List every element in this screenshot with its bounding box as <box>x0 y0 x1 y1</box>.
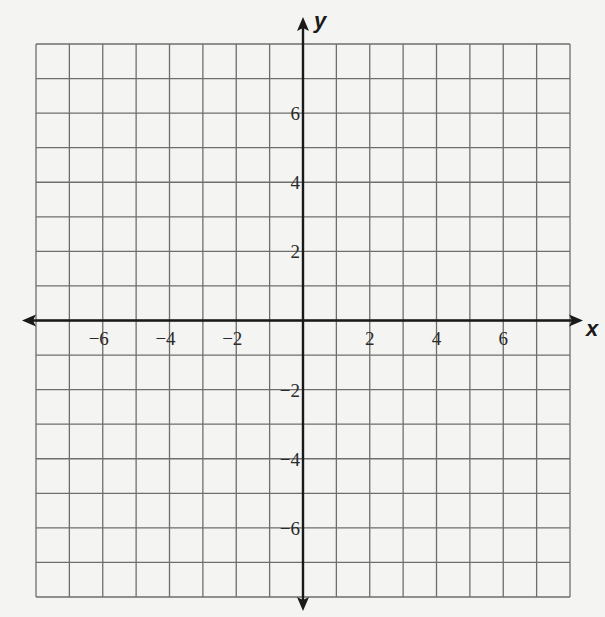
y-axis-label: y <box>313 8 328 33</box>
y-tick-label: −2 <box>280 380 300 401</box>
x-tick-label: 6 <box>499 328 509 349</box>
y-tick-label: 6 <box>291 103 301 124</box>
coordinate-plane: −6−4−2246 642−2−4−6 x y <box>0 0 605 617</box>
y-tick-label: 2 <box>291 241 301 262</box>
x-axis-label: x <box>585 316 599 341</box>
y-tick-label: −4 <box>280 449 301 470</box>
x-tick-label: −4 <box>155 328 176 349</box>
axes <box>22 17 583 611</box>
y-tick-label: 4 <box>291 172 301 193</box>
x-tick-label: −2 <box>222 328 242 349</box>
x-tick-label: −6 <box>89 328 109 349</box>
x-tick-labels: −6−4−2246 <box>89 328 508 349</box>
x-tick-label: 4 <box>432 328 442 349</box>
x-tick-label: 2 <box>365 328 375 349</box>
y-tick-label: −6 <box>280 518 300 539</box>
